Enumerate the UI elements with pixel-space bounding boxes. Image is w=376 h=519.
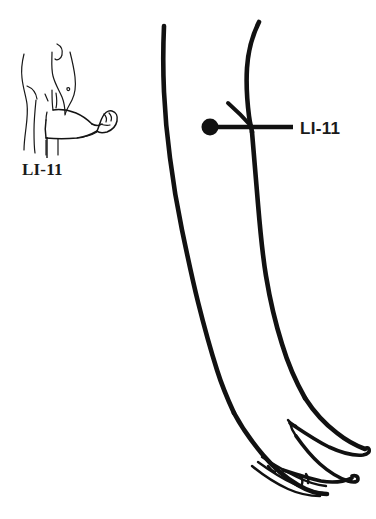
inset-far-leg [34,100,36,153]
main-point-label: LI-11 [300,119,340,138]
hand-lateral-edge [234,413,327,494]
inset-chest-mark [67,88,70,91]
inset-navel-tick-a [45,94,48,101]
arm-medial-edge-upper [247,22,259,132]
arm-lateral-edge [163,26,234,413]
inset-chest-contour [52,52,65,114]
li11-point-marker[interactable] [202,119,219,136]
inset-hip-curve [27,86,37,99]
arm-medial-edge-lower [252,132,305,398]
hand-dorsum-edge [305,398,365,449]
main-arm-figure: LI-11 [163,22,369,496]
inset-knuckle-a [104,114,106,122]
inset-body-figure: LI-11 [22,44,118,179]
inset-navel-tick-c [56,93,57,108]
inset-shoulder-notch [55,44,62,60]
inset-navel-tick-b [52,90,53,110]
inset-thumb-fold [100,124,110,125]
inset-point-label: LI-11 [22,160,63,179]
inset-knuckle-b [109,113,111,121]
li11-point-diagram: LI-11 [0,0,376,519]
inset-elbow-corner [45,120,46,138]
inset-upper-arm-rear [46,112,47,120]
diagram-canvas: LI-11 [0,0,376,519]
inset-back-contour [22,54,28,150]
inset-trunk-back [65,52,75,115]
inset-fist-outline [97,111,117,133]
inset-upper-arm-top [53,110,92,124]
